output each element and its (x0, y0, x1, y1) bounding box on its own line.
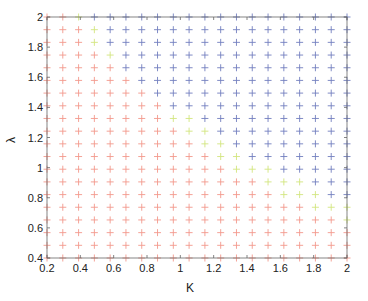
plus-marker-blue (186, 102, 193, 109)
plus-marker-red (91, 77, 98, 84)
plus-marker-red (59, 128, 66, 135)
plus-marker-red (249, 229, 256, 236)
plus-marker-red (249, 216, 256, 223)
plus-marker-blue (201, 77, 208, 84)
plus-marker-blue (217, 90, 224, 97)
y-tick-label: 0.6 (28, 222, 43, 234)
plus-marker-red (154, 102, 161, 109)
plus-marker-red (138, 166, 145, 173)
plus-marker-blue (312, 64, 319, 71)
plus-marker-blue (233, 64, 240, 71)
plus-marker-red (75, 90, 82, 97)
plus-marker-blue (233, 128, 240, 135)
plus-marker-blue (138, 26, 145, 33)
plus-marker-blue (154, 90, 161, 97)
plus-marker-yellow-green (91, 39, 98, 46)
plus-marker-red (122, 216, 129, 223)
plus-marker-red (217, 242, 224, 249)
plus-marker-blue (217, 64, 224, 71)
y-tick-label: 1.4 (28, 101, 43, 113)
plus-marker-blue (138, 39, 145, 46)
plus-marker-blue (217, 26, 224, 33)
plus-marker-red (138, 90, 145, 97)
plus-marker-blue (249, 90, 256, 97)
plus-marker-red (75, 26, 82, 33)
plus-marker-blue (265, 26, 272, 33)
plus-marker-blue (296, 26, 303, 33)
plus-marker-red (138, 102, 145, 109)
plus-marker-red (170, 166, 177, 173)
plus-marker-blue (328, 191, 335, 198)
plus-marker-blue (312, 77, 319, 84)
plus-marker-blue (233, 39, 240, 46)
plus-marker-red (75, 115, 82, 122)
plus-marker-blue (233, 115, 240, 122)
plus-marker-yellow-green (233, 166, 240, 173)
plus-marker-blue (265, 77, 272, 84)
plus-marker-blue (280, 52, 287, 59)
plus-marker-blue (265, 140, 272, 147)
plus-marker-red (75, 52, 82, 59)
plus-marker-blue (312, 178, 319, 185)
plus-marker-red (91, 191, 98, 198)
plus-marker-red (59, 216, 66, 223)
plus-marker-red (91, 90, 98, 97)
x-tick-label: 0.4 (73, 262, 88, 274)
plus-marker-red (186, 242, 193, 249)
plus-marker-blue (170, 64, 177, 71)
plus-marker-blue (201, 90, 208, 97)
plus-marker-red (170, 178, 177, 185)
plus-marker-red (328, 216, 335, 223)
y-axis-label: λ (4, 137, 18, 143)
plus-marker-red (233, 216, 240, 223)
plus-marker-blue (217, 102, 224, 109)
plus-marker-blue (328, 26, 335, 33)
plus-marker-red (122, 204, 129, 211)
plus-marker-red (249, 178, 256, 185)
plus-marker-red (186, 178, 193, 185)
plus-marker-red (138, 178, 145, 185)
plus-marker-blue (107, 26, 114, 33)
plus-marker-red (186, 191, 193, 198)
plus-marker-red (154, 115, 161, 122)
plus-marker-blue (280, 64, 287, 71)
plus-marker-blue (122, 26, 129, 33)
plus-marker-blue (249, 153, 256, 160)
plus-marker-red (170, 153, 177, 160)
plus-marker-red (138, 242, 145, 249)
plus-marker-blue (328, 166, 335, 173)
x-tick-label: 1.8 (306, 262, 321, 274)
plus-marker-red (186, 229, 193, 236)
plus-marker-red (265, 216, 272, 223)
plus-marker-blue (265, 64, 272, 71)
plus-marker-red (91, 216, 98, 223)
plus-marker-blue (312, 102, 319, 109)
plus-marker-blue (328, 64, 335, 71)
plus-marker-blue (122, 52, 129, 59)
plus-marker-blue (154, 64, 161, 71)
plus-marker-red (107, 102, 114, 109)
plus-marker-blue (186, 52, 193, 59)
plus-marker-red (122, 140, 129, 147)
plus-marker-red (91, 242, 98, 249)
plus-marker-blue (201, 52, 208, 59)
plus-marker-yellow-green (233, 153, 240, 160)
plus-marker-blue (280, 26, 287, 33)
y-tick-label: 1.2 (28, 132, 43, 144)
y-tick-label: 0.4 (28, 252, 43, 264)
plus-marker-blue (233, 26, 240, 33)
plus-marker-red (107, 178, 114, 185)
plus-marker-red (233, 191, 240, 198)
plus-marker-blue (280, 153, 287, 160)
plus-marker-yellow-green (217, 140, 224, 147)
plus-marker-red (107, 166, 114, 173)
plus-marker-red (201, 216, 208, 223)
x-tick-label: 0.6 (106, 262, 121, 274)
plus-marker-blue (312, 166, 319, 173)
plus-marker-blue (170, 102, 177, 109)
plus-marker-blue (312, 90, 319, 97)
plus-marker-blue (249, 52, 256, 59)
plus-marker-red (91, 102, 98, 109)
plus-marker-red (186, 166, 193, 173)
plus-marker-red (154, 166, 161, 173)
